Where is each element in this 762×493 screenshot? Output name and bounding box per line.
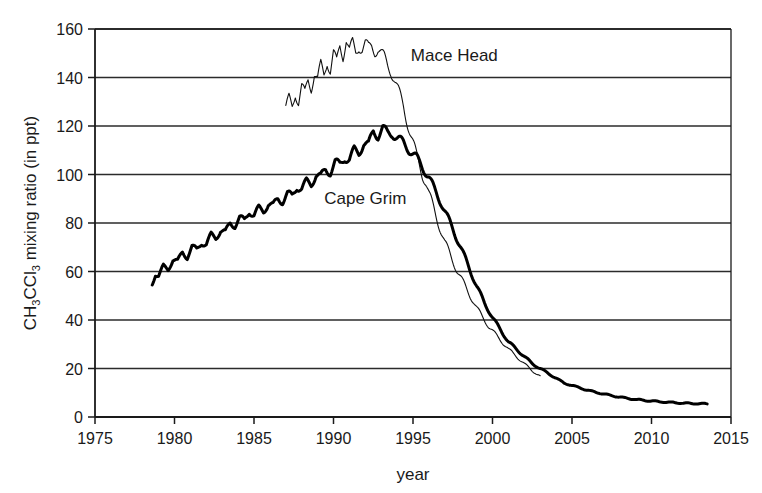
- chart-background: [0, 0, 762, 493]
- y-tick-label-120: 120: [56, 118, 83, 135]
- y-tick-label-60: 60: [65, 264, 83, 281]
- x-tick-label-2010: 2010: [634, 430, 670, 447]
- y-tick-label-140: 140: [56, 70, 83, 87]
- x-tick-label-1980: 1980: [157, 430, 193, 447]
- y-tick-label-20: 20: [65, 361, 83, 378]
- chart-figure: 197519801985199019952000200520102015 020…: [0, 0, 762, 493]
- line-chart: 197519801985199019952000200520102015 020…: [0, 0, 762, 493]
- y-tick-label-80: 80: [65, 215, 83, 232]
- x-tick-label-1990: 1990: [316, 430, 352, 447]
- x-tick-label-2005: 2005: [554, 430, 590, 447]
- y-tick-label-160: 160: [56, 21, 83, 38]
- series-label-cape-grim: Cape Grim: [324, 189, 406, 208]
- y-tick-label-100: 100: [56, 167, 83, 184]
- y-tick-label-40: 40: [65, 312, 83, 329]
- x-tick-label-2000: 2000: [475, 430, 511, 447]
- x-axis-tick-labels: 197519801985199019952000200520102015: [77, 430, 749, 447]
- x-tick-label-1975: 1975: [77, 430, 113, 447]
- x-tick-label-2015: 2015: [713, 430, 749, 447]
- x-tick-label-1985: 1985: [236, 430, 272, 447]
- y-axis-title: CH3CCl3 mixing ratio (in ppt): [21, 116, 42, 330]
- y-tick-label-0: 0: [74, 409, 83, 426]
- x-axis-title: year: [396, 465, 429, 484]
- series-label-mace-head: Mace Head: [411, 46, 498, 65]
- x-tick-label-1995: 1995: [395, 430, 431, 447]
- svg-text:CH3CCl3 mixing ratio (in ppt): CH3CCl3 mixing ratio (in ppt): [21, 116, 42, 330]
